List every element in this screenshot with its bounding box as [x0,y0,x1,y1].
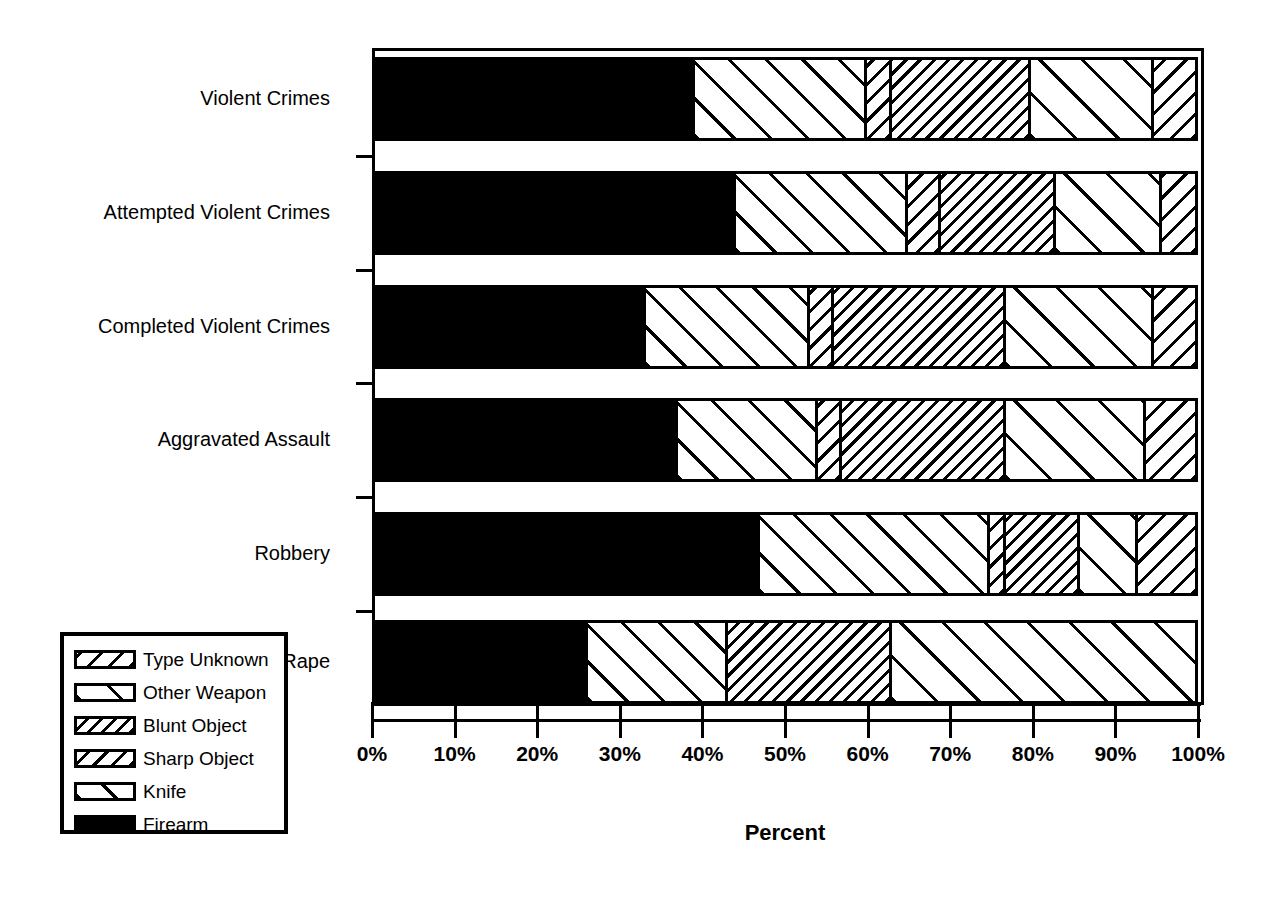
category-label-row: Attempted Violent Crimes [0,202,352,222]
category-label-row: Completed Violent Crimes [0,316,352,336]
bar-segment-type-unknown [1146,401,1195,479]
x-tick-20pct [536,702,539,738]
category-label-row: Violent Crimes [0,88,352,108]
bar-segment-knife [760,515,990,593]
x-tick-label: 40% [657,742,747,766]
y-axis-tick [356,610,373,613]
bar-segment-firearm [375,60,695,138]
bar-row [372,620,1198,704]
legend-item[interactable]: Type Unknown [74,644,284,675]
bar-segment-type-unknown [1138,515,1195,593]
legend-label: Type Unknown [143,650,269,669]
legend-label: Blunt Object [143,716,247,735]
bar-segment-firearm [375,288,646,366]
legend-swatch-icon [74,650,136,669]
legend-item[interactable]: Firearm [74,809,284,840]
x-tick-label: 90% [1070,742,1160,766]
legend-item[interactable]: Other Weapon [74,677,284,708]
bar-row [372,285,1198,369]
x-tick-60pct [867,702,870,738]
y-axis-tick [356,269,373,272]
bar-segment-other-weapon [1006,401,1145,479]
x-tick-10pct [454,702,457,738]
bar-segment-blunt-object [941,174,1056,252]
legend-label: Knife [143,782,186,801]
bar-segment-firearm [375,623,588,701]
bar-segment-type-unknown [1154,288,1195,366]
x-tick-label: 80% [988,742,1078,766]
category-label-row: Aggravated Assault [0,429,352,449]
x-axis-title: Percent [372,820,1198,846]
bar-segment-blunt-object [728,623,892,701]
legend-label: Other Weapon [143,683,266,702]
legend-swatch-icon [74,815,136,834]
bar-segment-knife [588,623,727,701]
bar-row [372,398,1198,482]
bar-segment-firearm [375,515,760,593]
x-tick-label: 10% [410,742,500,766]
x-tick-80pct [1032,702,1035,738]
bar-segment-other-weapon [892,623,1195,701]
bar-segment-blunt-object [842,401,1006,479]
legend-swatch-icon [74,749,136,768]
category-label: Completed Violent Crimes [0,316,352,336]
x-tick-label: 70% [905,742,995,766]
bar-segment-other-weapon [1056,174,1163,252]
legend: Type UnknownOther WeaponBlunt ObjectShar… [60,632,288,834]
x-tick-label: 20% [492,742,582,766]
legend-swatch-icon [74,683,136,702]
bar-segment-knife [695,60,867,138]
bar-segment-firearm [375,401,678,479]
category-label: Aggravated Assault [0,429,352,449]
bar-segment-blunt-object [1006,515,1080,593]
x-tick-label: 30% [575,742,665,766]
legend-label: Firearm [143,815,208,834]
bar-segment-blunt-object [892,60,1031,138]
legend-label: Sharp Object [143,749,254,768]
y-axis-tick [356,155,373,158]
category-label: Attempted Violent Crimes [0,202,352,222]
bar-segment-other-weapon [1006,288,1154,366]
plot-area [372,48,1204,705]
legend-item[interactable]: Blunt Object [74,710,284,741]
category-label: Violent Crimes [0,88,352,108]
x-tick-label: 100% [1153,742,1243,766]
bar-row [372,57,1198,141]
bar-segment-other-weapon [1031,60,1154,138]
bar-segment-type-unknown [1154,60,1195,138]
y-axis-tick [356,382,373,385]
x-tick-30pct [619,702,622,738]
bar-row [372,171,1198,255]
x-tick-40pct [701,702,704,738]
bar-segment-sharp-object [867,60,892,138]
legend-swatch-icon [74,782,136,801]
x-tick-50pct [784,702,787,738]
x-tick-70pct [949,702,952,738]
bar-row [372,512,1198,596]
x-tick-label: 0% [327,742,417,766]
bar-segment-knife [678,401,817,479]
bar-segment-firearm [375,174,736,252]
bar-segment-other-weapon [1080,515,1137,593]
bar-segment-knife [736,174,908,252]
stacked-bar-chart: 0%10%20%30%40%50%60%70%80%90%100% Violen… [0,0,1284,920]
legend-item[interactable]: Knife [74,776,284,807]
bar-segment-type-unknown [1162,174,1195,252]
x-tick-label: 50% [740,742,830,766]
bar-segment-sharp-object [810,288,835,366]
category-label-row: Robbery [0,543,352,563]
category-label: Robbery [0,543,352,563]
bar-segment-blunt-object [834,288,1006,366]
legend-swatch-icon [74,716,136,735]
x-tick-0pct [371,702,374,738]
x-tick-label: 60% [823,742,913,766]
x-tick-90pct [1114,702,1117,738]
bar-segment-knife [646,288,810,366]
legend-item[interactable]: Sharp Object [74,743,284,774]
bar-segment-sharp-object [908,174,941,252]
bar-segment-sharp-object [990,515,1006,593]
x-tick-100pct [1197,702,1200,738]
bar-segment-sharp-object [818,401,843,479]
y-axis-tick [356,496,373,499]
